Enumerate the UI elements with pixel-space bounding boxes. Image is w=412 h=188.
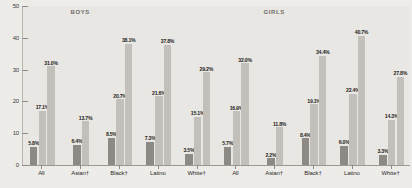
- panel-header-girls: GIRLS: [264, 9, 285, 15]
- x-tick: [41, 165, 42, 169]
- x-tick: [352, 165, 353, 169]
- panel-header-boys: BOYS: [70, 9, 89, 15]
- bar-value-label: 31.0%: [44, 60, 57, 66]
- category-label: Black†: [110, 170, 127, 176]
- category-label: Asian†: [265, 170, 283, 176]
- bar: [47, 66, 55, 165]
- bar: [203, 72, 211, 165]
- bar-value-label: 29.2%: [200, 66, 213, 72]
- bar: [397, 77, 405, 165]
- bar-value-label: 40.7%: [355, 29, 368, 35]
- category-label: All: [38, 170, 44, 176]
- bar: [155, 96, 163, 165]
- bar: [310, 104, 318, 165]
- y-axis: [22, 6, 23, 165]
- bar-value-label: 7.3%: [145, 135, 156, 141]
- x-tick: [197, 165, 198, 169]
- bar-value-label: 5.7%: [222, 140, 233, 146]
- x-tick: [80, 165, 81, 169]
- bar-value-label: 3.3%: [377, 148, 388, 154]
- bar: [108, 138, 116, 165]
- category-label: Asian†: [71, 170, 89, 176]
- bar: [73, 145, 81, 165]
- bar: [146, 142, 154, 165]
- category-label: White†: [188, 170, 206, 176]
- x-tick: [158, 165, 159, 169]
- bar: [164, 45, 172, 165]
- bar: [379, 155, 387, 165]
- x-tick: [313, 165, 314, 169]
- bar-value-label: 34.4%: [316, 49, 329, 55]
- bar-value-label: 6.0%: [339, 139, 350, 145]
- bar: [276, 127, 284, 165]
- bar-value-label: 32.0%: [238, 57, 251, 63]
- y-tick: [22, 165, 28, 166]
- bar: [349, 94, 357, 165]
- bar-value-label: 27.8%: [394, 70, 407, 76]
- y-tick: [22, 70, 28, 71]
- bar: [319, 56, 327, 165]
- bar: [185, 154, 193, 165]
- x-tick: [235, 165, 236, 169]
- bar-value-label: 37.8%: [161, 38, 174, 44]
- y-tick-label: 20: [0, 98, 19, 104]
- bar-value-label: 2.2%: [265, 152, 276, 158]
- category-label: Latino: [150, 170, 166, 176]
- bar: [30, 147, 38, 165]
- bar: [82, 121, 90, 165]
- x-tick: [274, 165, 275, 169]
- x-tick: [119, 165, 120, 169]
- x-tick: [391, 165, 392, 169]
- category-label: Black†: [304, 170, 321, 176]
- y-tick-label: 40: [0, 35, 19, 41]
- bar: [125, 44, 133, 165]
- bar: [358, 36, 366, 165]
- bar: [233, 111, 241, 165]
- bar-value-label: 13.7%: [79, 115, 92, 121]
- bar: [388, 120, 396, 165]
- category-label: Latino: [344, 170, 360, 176]
- y-tick: [22, 101, 28, 102]
- bar-value-label: 8.4%: [300, 132, 311, 138]
- bar: [224, 147, 232, 165]
- bar-chart: 01020304050 BOYSGIRLS 5.8%17.1%31.0%6.4%…: [0, 0, 412, 188]
- bar-value-label: 6.4%: [71, 138, 82, 144]
- bar-value-label: 5.8%: [28, 140, 39, 146]
- category-label: All: [232, 170, 238, 176]
- y-tick: [22, 133, 28, 134]
- bar: [241, 63, 249, 165]
- bar: [267, 158, 275, 165]
- y-tick-label: 10: [0, 130, 19, 136]
- y-tick: [22, 38, 28, 39]
- category-label: White†: [382, 170, 400, 176]
- bar-value-label: 38.1%: [122, 37, 135, 43]
- y-tick-label: 50: [0, 3, 19, 9]
- y-tick-label: 30: [0, 67, 19, 73]
- bar-value-label: 8.5%: [106, 131, 117, 137]
- bar: [340, 146, 348, 165]
- bar-value-label: 3.5%: [183, 147, 194, 153]
- bar: [39, 111, 47, 165]
- bar: [194, 117, 202, 165]
- bar-value-label: 11.8%: [273, 121, 286, 127]
- y-tick: [22, 6, 28, 7]
- y-tick-label: 0: [0, 162, 19, 168]
- bar: [116, 99, 124, 165]
- bar: [302, 138, 310, 165]
